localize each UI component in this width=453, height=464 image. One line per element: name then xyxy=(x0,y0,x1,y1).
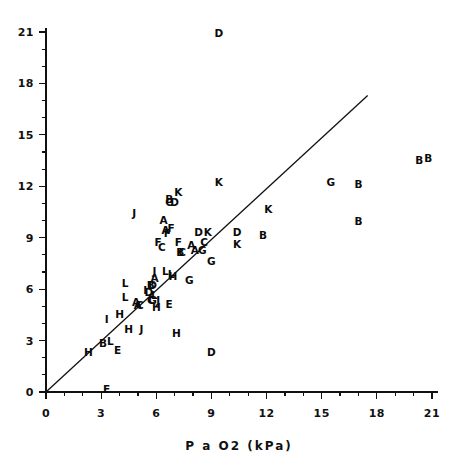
data-point-H: H xyxy=(84,346,93,358)
x-axis-title: P a O2 (kPa) xyxy=(185,439,293,453)
data-point-E: E xyxy=(114,344,121,356)
data-point-B: B xyxy=(424,152,432,164)
data-point-L: L xyxy=(122,291,129,303)
x-tick-label: 18 xyxy=(369,407,385,420)
axis-labels-group: 036912151821036912151821P a O2 (kPa) xyxy=(18,26,440,453)
data-point-F: F xyxy=(164,227,171,239)
data-point-J: J xyxy=(139,323,144,335)
data-point-G: G xyxy=(207,255,216,267)
data-point-B: B xyxy=(354,178,362,190)
data-point-H: H xyxy=(124,323,133,335)
data-point-G: G xyxy=(185,274,194,286)
data-point-L: L xyxy=(107,335,114,347)
data-point-H: H xyxy=(115,308,124,320)
y-tick-label: 21 xyxy=(18,26,34,39)
y-tick-label: 15 xyxy=(18,129,34,142)
data-point-J: J xyxy=(131,207,136,219)
data-point-B: B xyxy=(415,154,423,166)
x-tick-label: 15 xyxy=(314,407,330,420)
data-point-D: D xyxy=(170,196,179,208)
y-tick-label: 18 xyxy=(18,77,34,90)
y-tick-label: 0 xyxy=(26,386,34,399)
data-point-E: E xyxy=(166,298,173,310)
x-tick-label: 21 xyxy=(424,407,440,420)
scatter-plot-figure: DBBGBKKBCDKJBAAFFDKDBFCFCKAAGBCGJLLHAGLB… xyxy=(0,0,453,464)
data-point-I: I xyxy=(105,313,109,325)
data-point-K: K xyxy=(233,238,242,250)
data-point-C: C xyxy=(158,241,166,253)
x-tick-label: 6 xyxy=(152,407,160,420)
data-point-H: H xyxy=(168,270,177,282)
x-tick-label: 3 xyxy=(97,407,105,420)
data-point-D: D xyxy=(214,27,223,39)
data-point-E: E xyxy=(103,383,110,395)
data-point-D: D xyxy=(207,346,216,358)
data-point-C: C xyxy=(136,299,144,311)
data-point-K: K xyxy=(215,176,224,188)
data-point-B: B xyxy=(354,215,362,227)
data-point-G: G xyxy=(327,176,336,188)
data-point-B: B xyxy=(259,229,267,241)
y-tick-label: 3 xyxy=(26,335,34,348)
x-tick-label: 9 xyxy=(207,407,215,420)
data-point-K: K xyxy=(264,203,273,215)
x-tick-label: 0 xyxy=(42,407,50,420)
data-point-H: H xyxy=(172,327,181,339)
x-tick-label: 12 xyxy=(258,407,274,420)
data-point-L: L xyxy=(122,277,129,289)
data-point-H: H xyxy=(152,301,161,313)
y-tick-label: 9 xyxy=(26,232,34,245)
plot-canvas: DBBGBKKBCDKJBAAFFDKDBFCFCKAAGBCGJLLHAGLB… xyxy=(0,0,453,464)
data-points-group: DBBGBKKBCDKJBAAFFDKDBFCFCKAAGBCGJLLHAGLB… xyxy=(84,27,432,396)
y-tick-label: 12 xyxy=(18,180,34,193)
data-point-C: C xyxy=(178,246,186,258)
y-tick-label: 6 xyxy=(26,283,34,296)
data-point-G: G xyxy=(198,244,207,256)
data-point-B: B xyxy=(99,337,107,349)
data-point-D: D xyxy=(233,226,242,238)
